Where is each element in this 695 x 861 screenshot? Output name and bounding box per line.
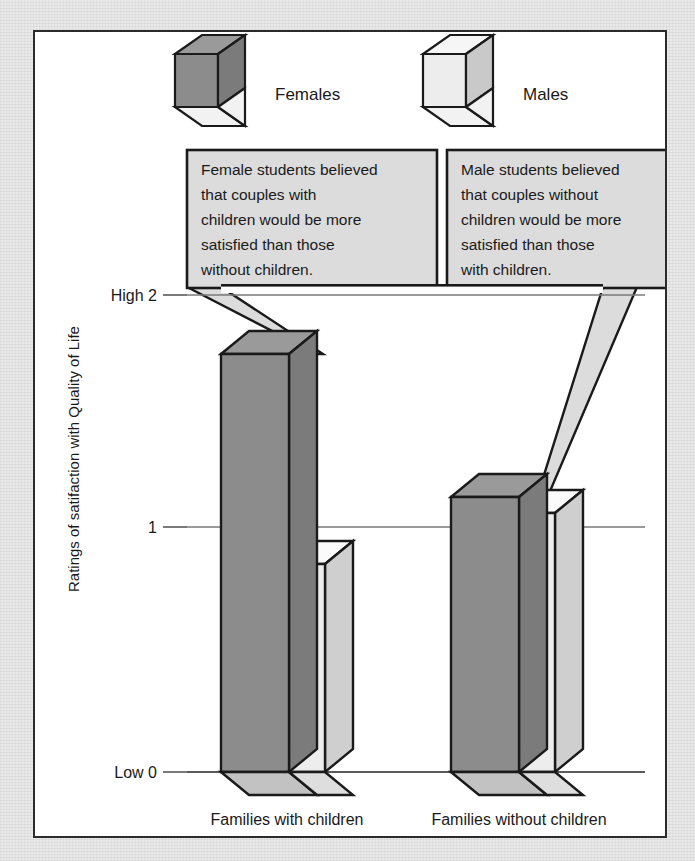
callout-males-line-5: with children. <box>460 261 551 278</box>
ytick-label-1: 1 <box>148 519 157 536</box>
callout-base-line <box>221 284 603 287</box>
callout-males-line-4: satisfied than those <box>461 236 595 253</box>
callout-females-line-2: that couples with <box>201 186 316 203</box>
callout-females: Female students believed that couples wi… <box>187 150 437 288</box>
callout-males-line-3: children would be more <box>461 211 621 228</box>
callout-tail-males <box>533 287 637 510</box>
callout-males-line-1: Male students believed <box>461 161 620 178</box>
callout-females-line-3: children would be more <box>201 211 361 228</box>
category-label-families-with-children: Families with children <box>211 811 364 828</box>
figure-frame: Females Males <box>33 30 667 838</box>
y-axis-title: Ratings of satifaction with Quality of L… <box>65 326 82 592</box>
quality-of-life-bar-chart: Females Males <box>35 32 665 836</box>
ytick-label-high-2: High 2 <box>111 287 157 304</box>
figure-page: Females Males <box>0 0 695 861</box>
category-label-families-without-children: Families without children <box>431 811 606 828</box>
bar-group-2-female <box>451 474 547 772</box>
callout-females-line-5: without children. <box>200 261 313 278</box>
legend-label-males: Males <box>523 85 568 104</box>
callout-females-line-1: Female students believed <box>201 161 378 178</box>
bar-group-1-female <box>221 331 317 772</box>
callout-females-line-4: satisfied than those <box>201 236 335 253</box>
callout-males-line-2: that couples without <box>461 186 599 203</box>
callout-males: Male students believed that couples with… <box>447 150 665 288</box>
legend-label-females: Females <box>275 85 340 104</box>
legend-item-males: Males <box>423 35 568 107</box>
ytick-label-low-0: Low 0 <box>114 764 157 781</box>
